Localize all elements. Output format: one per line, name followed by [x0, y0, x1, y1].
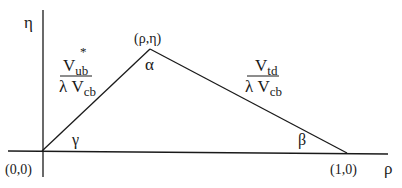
right-numerator: Vtd — [255, 56, 278, 78]
origin-label: (0,0) — [5, 162, 32, 178]
triangle-left-side — [42, 49, 150, 151]
alpha-angle-label: α — [145, 55, 154, 74]
beta-angle-label: β — [298, 131, 306, 149]
apex-label: (ρ,η) — [134, 31, 161, 47]
left-numerator: Vub — [63, 56, 88, 78]
triangle-right-side — [150, 49, 347, 153]
left-side-fraction: * Vub λ Vcb — [59, 44, 96, 99]
left-numerator-star: * — [80, 44, 87, 59]
eta-axis-label: η — [24, 13, 33, 32]
rho-axis-label: ρ — [384, 159, 392, 178]
right-vertex-label: (1,0) — [330, 162, 357, 178]
left-denominator: λ Vcb — [59, 77, 96, 99]
right-side-fraction: Vtd λ Vcb — [245, 56, 282, 99]
horizontal-axis — [8, 151, 388, 154]
right-denominator: λ Vcb — [245, 77, 282, 99]
gamma-angle-label: γ — [71, 131, 79, 149]
unitarity-triangle-diagram: η ρ (0,0) (ρ,η) (1,0) α β γ * Vub λ Vcb … — [0, 0, 402, 188]
